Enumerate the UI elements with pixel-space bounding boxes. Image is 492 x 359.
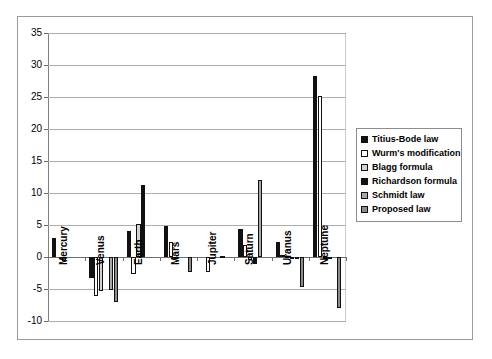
legend-item: Richardson formula xyxy=(361,175,457,188)
bar xyxy=(109,257,113,290)
legend-swatch-icon xyxy=(361,192,368,199)
x-tick-mark xyxy=(346,257,347,261)
bar xyxy=(300,257,304,287)
x-axis-label-neptune: Neptune xyxy=(320,225,330,265)
bar xyxy=(295,257,299,259)
bar xyxy=(238,229,242,257)
y-tick-label: 20 xyxy=(31,124,42,134)
bar-group xyxy=(197,33,234,321)
bar xyxy=(114,257,118,302)
bar-group xyxy=(123,33,160,321)
chart-root: 35302520151050-5-10 MercuryVenusEarthMar… xyxy=(0,0,492,359)
y-tick-label: 35 xyxy=(31,28,42,38)
plot-area xyxy=(48,33,346,321)
y-tick-label: 0 xyxy=(36,252,42,262)
bar-group xyxy=(85,33,122,321)
x-axis-label-uranus: Uranus xyxy=(283,231,293,265)
bar xyxy=(276,242,280,257)
y-tick-label: -5 xyxy=(33,284,42,294)
y-tick-label: 10 xyxy=(31,188,42,198)
x-axis-label-earth: Earth xyxy=(134,239,144,265)
legend-item: Blagg formula xyxy=(361,161,457,174)
legend-label: Blagg formula xyxy=(372,163,433,172)
y-tick-label: -10 xyxy=(28,316,42,326)
legend-label: Proposed law xyxy=(372,205,431,214)
x-axis-label-venus: Venus xyxy=(96,236,106,265)
y-tick-label: 25 xyxy=(31,92,42,102)
x-axis-label-mars: Mars xyxy=(171,242,181,265)
x-axis-label-mercury: Mercury xyxy=(59,226,69,265)
legend-label: Wurm's modification xyxy=(372,149,460,158)
y-tick-mark xyxy=(44,321,48,322)
bar xyxy=(127,231,131,257)
bar xyxy=(188,257,192,272)
legend-item: Wurm's modification xyxy=(361,147,457,160)
bar xyxy=(89,257,93,278)
bar xyxy=(313,76,317,257)
legend-swatch-icon xyxy=(361,164,368,171)
x-axis-label-jupiter: Jupiter xyxy=(208,232,218,265)
legend-label: Richardson formula xyxy=(372,177,457,186)
legend-swatch-icon xyxy=(361,136,368,143)
bar-group xyxy=(160,33,197,321)
bar xyxy=(258,180,262,257)
legend-item: Titius-Bode law xyxy=(361,133,457,146)
bar-group xyxy=(309,33,346,321)
legend-label: Schmidt law xyxy=(372,191,425,200)
gridline--10 xyxy=(48,321,346,322)
legend-item: Proposed law xyxy=(361,203,457,216)
bar xyxy=(52,238,56,257)
bar xyxy=(220,256,224,258)
bar xyxy=(337,257,341,308)
legend-label: Titius-Bode law xyxy=(372,135,438,144)
x-axis-label-saturn: Saturn xyxy=(245,233,255,265)
y-tick-label: 15 xyxy=(31,156,42,166)
bar xyxy=(164,226,168,257)
legend-swatch-icon xyxy=(361,150,368,157)
bar-group xyxy=(48,33,85,321)
bar-group xyxy=(272,33,309,321)
chart-legend: Titius-Bode lawWurm's modificationBlagg … xyxy=(356,128,462,222)
y-tick-label: 30 xyxy=(31,60,42,70)
legend-swatch-icon xyxy=(361,178,368,185)
y-tick-label: 5 xyxy=(36,220,42,230)
legend-swatch-icon xyxy=(361,206,368,213)
bar-groups xyxy=(48,33,346,321)
bar-group xyxy=(234,33,271,321)
legend-item: Schmidt law xyxy=(361,189,457,202)
